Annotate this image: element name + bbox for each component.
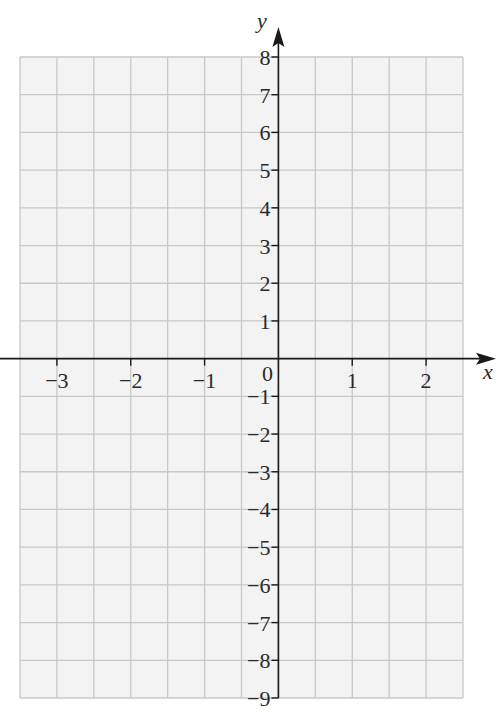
coordinate-grid-chart: −3−2−11287654321−1−2−3−4−5−6−7−8−9 x y 0 bbox=[0, 0, 500, 721]
y-tick-label: −7 bbox=[247, 611, 270, 636]
x-axis-label: x bbox=[482, 359, 493, 384]
x-tick-label: 1 bbox=[347, 368, 358, 393]
origin-label: 0 bbox=[262, 361, 273, 386]
y-tick-label: −4 bbox=[247, 497, 270, 522]
y-tick-label: 7 bbox=[259, 83, 270, 108]
y-tick-label: 3 bbox=[259, 234, 270, 259]
y-tick-label: −8 bbox=[247, 648, 270, 673]
y-tick-label: −6 bbox=[247, 573, 270, 598]
y-tick-label: 8 bbox=[259, 45, 270, 70]
y-tick-label: −9 bbox=[247, 686, 270, 711]
x-tick-label: −2 bbox=[119, 368, 142, 393]
x-tick-label: −3 bbox=[45, 368, 68, 393]
y-tick-label: 4 bbox=[259, 196, 270, 221]
y-tick-label: 5 bbox=[259, 158, 270, 183]
y-tick-label: −1 bbox=[247, 384, 270, 409]
y-tick-label: 1 bbox=[259, 309, 270, 334]
y-tick-label: −2 bbox=[247, 422, 270, 447]
x-tick-label: 2 bbox=[421, 368, 432, 393]
y-tick-label: −5 bbox=[247, 535, 270, 560]
y-axis-label: y bbox=[255, 8, 267, 33]
y-tick-label: −3 bbox=[247, 460, 270, 485]
y-tick-label: 6 bbox=[259, 120, 270, 145]
y-tick-label: 2 bbox=[259, 271, 270, 296]
x-tick-label: −1 bbox=[193, 368, 216, 393]
